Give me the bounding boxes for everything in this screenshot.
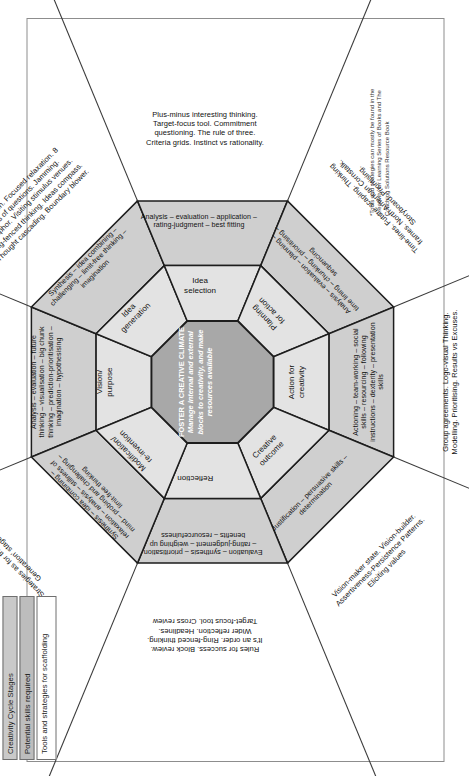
poster: Creativity Cycle Stages Potential skills… bbox=[0, 0, 469, 776]
legend-item-tools: Tools and strategies for scaffolding bbox=[36, 596, 56, 760]
hub-subtitle: Manage internal and external blocks to c… bbox=[185, 320, 213, 444]
rotated-poster-wrapper: Creativity Cycle Stages Potential skills… bbox=[0, 0, 469, 776]
hub-title: FOSTER A CREATIVE CLIMATE bbox=[176, 320, 185, 444]
footnote: *Tools and strategies can mostly be foun… bbox=[368, 66, 390, 216]
hub-label: FOSTER A CREATIVE CLIMATE Manage interna… bbox=[176, 320, 214, 444]
legend-item-stages: Creativity Cycle Stages bbox=[2, 596, 17, 760]
legend: Creativity Cycle Stages Potential skills… bbox=[2, 596, 56, 760]
legend-item-skills: Potential skills required bbox=[19, 596, 34, 760]
tool-divider-ray bbox=[0, 457, 31, 558]
tool-divider-ray bbox=[0, 206, 31, 307]
